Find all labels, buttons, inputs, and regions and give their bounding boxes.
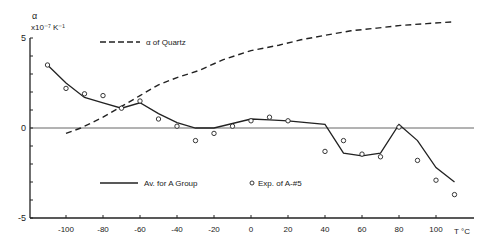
x-tick-label: -40 — [171, 225, 183, 234]
legend-circle-marker — [250, 181, 254, 185]
data-point — [119, 106, 123, 110]
data-point — [452, 192, 456, 196]
x-tick-label: -20 — [208, 225, 220, 234]
axis-ticks: 50-5-100-80-60-40-20020406080100 — [18, 33, 443, 234]
data-point — [378, 155, 382, 159]
data-point — [64, 86, 68, 90]
y-axis-label-alpha: α — [32, 11, 37, 21]
y-tick-label: -5 — [18, 213, 26, 223]
legend: α of QuartzAv. for A GroupExp. of A-#5 — [100, 38, 302, 188]
data-point — [101, 93, 105, 97]
data-point — [360, 152, 364, 156]
x-tick-label: -100 — [58, 225, 75, 234]
data-point — [249, 119, 253, 123]
x-axis-label: T °C — [454, 227, 470, 236]
data-point — [397, 125, 401, 129]
x-tick-label: -60 — [134, 225, 146, 234]
data-point — [175, 124, 179, 128]
legend-label-quartz: α of Quartz — [146, 38, 186, 47]
x-tick-label: 100 — [429, 225, 443, 234]
data-point — [230, 124, 234, 128]
data-point — [267, 115, 271, 119]
data-point — [45, 63, 49, 67]
data-point — [341, 138, 345, 142]
group-average-line — [48, 65, 455, 182]
legend-label-experiment: Exp. of A-#5 — [258, 179, 302, 188]
series-layer — [45, 22, 456, 197]
data-point — [415, 158, 419, 162]
y-tick-label: 0 — [21, 123, 26, 133]
data-point — [82, 92, 86, 96]
data-point — [193, 138, 197, 142]
x-tick-label: -80 — [97, 225, 109, 234]
data-point — [138, 99, 142, 103]
data-point — [212, 131, 216, 135]
x-tick-label: 60 — [358, 225, 367, 234]
thermal-expansion-chart: 50-5-100-80-60-40-20020406080100 α of Qu… — [0, 0, 485, 249]
x-tick-label: 40 — [321, 225, 330, 234]
legend-label-average: Av. for A Group — [144, 179, 198, 188]
data-point — [434, 178, 438, 182]
x-tick-label: 20 — [284, 225, 293, 234]
y-axis-label-units: x10⁻⁷ K⁻¹ — [31, 23, 65, 32]
x-tick-label: 80 — [395, 225, 404, 234]
data-point — [156, 117, 160, 121]
quartz-curve — [66, 22, 455, 134]
data-point — [323, 149, 327, 153]
y-tick-label: 5 — [21, 33, 26, 43]
axes — [30, 38, 474, 218]
x-tick-label: 0 — [249, 225, 254, 234]
data-point — [286, 119, 290, 123]
